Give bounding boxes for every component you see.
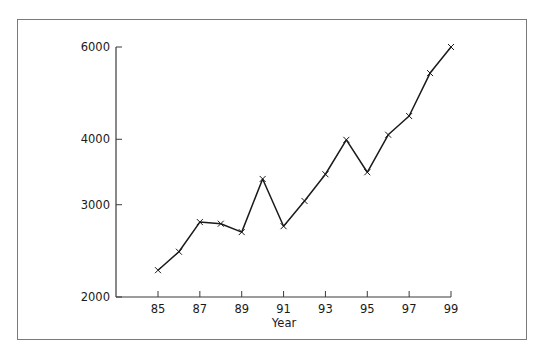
x-marker-icon bbox=[385, 132, 391, 138]
x-marker-icon bbox=[260, 176, 266, 182]
x-marker-icon bbox=[155, 267, 161, 273]
x-marker-icon bbox=[281, 223, 287, 229]
y-axis: 2000300040006000 bbox=[81, 40, 122, 304]
data-series bbox=[155, 44, 454, 273]
x-marker-icon bbox=[322, 171, 328, 177]
x-marker-icon bbox=[448, 44, 454, 50]
y-tick-label: 2000 bbox=[81, 290, 110, 304]
x-tick-label: 91 bbox=[276, 302, 291, 316]
x-tick-label: 87 bbox=[193, 302, 208, 316]
line-chart: 2000300040006000 8587899193959799 Year bbox=[0, 0, 543, 355]
x-tick-label: 89 bbox=[234, 302, 249, 316]
x-marker-icon bbox=[364, 169, 370, 175]
x-marker-icon bbox=[176, 249, 182, 255]
x-marker-icon bbox=[239, 229, 245, 235]
x-marker-icon bbox=[406, 113, 412, 119]
x-tick-label: 99 bbox=[444, 302, 459, 316]
x-tick-label: 85 bbox=[151, 302, 166, 316]
y-tick-label: 6000 bbox=[81, 40, 110, 54]
y-tick-label: 4000 bbox=[81, 132, 110, 146]
series-line bbox=[158, 47, 451, 270]
x-axis: 8587899193959799 bbox=[116, 291, 458, 316]
x-tick-label: 93 bbox=[318, 302, 333, 316]
x-axis-title: Year bbox=[271, 316, 297, 330]
x-marker-icon bbox=[302, 198, 308, 204]
x-marker-icon bbox=[343, 137, 349, 143]
y-tick-label: 3000 bbox=[81, 198, 110, 212]
x-tick-label: 97 bbox=[402, 302, 417, 316]
x-tick-label: 95 bbox=[360, 302, 375, 316]
x-marker-icon bbox=[427, 70, 433, 76]
